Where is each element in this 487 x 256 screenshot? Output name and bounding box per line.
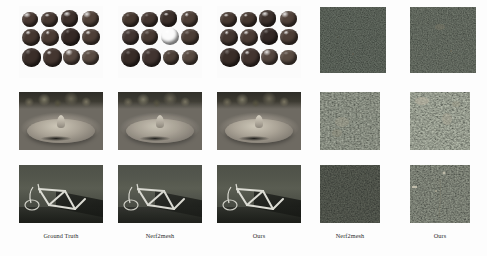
sphere-grid [220,10,299,70]
garden-vase [255,115,263,128]
error-map [320,92,380,150]
panel-row2-nerf2mesh-errormap [320,92,380,150]
panel-row2-ours-errormap [410,92,470,150]
sphere [240,29,258,46]
sphere [260,28,278,46]
sphere [63,49,80,65]
panel-row3-ours [217,165,301,223]
sphere [122,12,139,28]
comparison-figure: Ground Truth Nerf2mesh Ours Nerf2mesh Ou… [0,0,487,256]
sphere [22,12,39,28]
error-map-noise [320,92,380,150]
garden-scene-ours [217,92,301,150]
sphere [82,50,99,66]
garden-canopy [118,92,202,109]
bicycle-scene-nerf2mesh [118,165,202,223]
sphere [182,50,198,66]
sphere [22,48,42,67]
panel-row3-ours-errormap [410,165,470,223]
sphere [220,48,240,67]
panel-row3-ground-truth [19,165,103,223]
sphere [141,12,158,28]
panel-row3-nerf2mesh [118,165,202,223]
sphere [280,29,297,45]
sphere [181,29,198,45]
sphere [259,10,276,26]
panel-row2-ours [217,92,301,150]
sphere [241,48,260,66]
column-label-ours-errormap: Ours [406,231,474,240]
sphere [220,12,237,28]
sphere [220,29,238,46]
column-label-nerf2mesh-render: Nerf2mesh [126,231,194,240]
spheres-render-nerf2mesh [118,6,202,78]
garden-vase [57,115,65,128]
error-map-noise [410,7,476,73]
column-label-nerf2mesh-errormap: Nerf2mesh [316,231,384,240]
sphere [22,29,40,46]
bicycle-frame [19,165,103,223]
garden-vase [156,115,164,128]
spheres-render-gt [19,6,103,78]
bicycle-scene-ours [217,165,301,223]
sphere [43,48,62,66]
sphere [280,50,297,66]
error-map [410,165,470,223]
panel-row1-nerf2mesh-errormap [320,7,386,73]
garden-canopy [217,92,301,109]
sphere [261,49,278,65]
error-map [320,165,380,223]
sphere-grid [121,10,200,70]
panel-row3-nerf2mesh-errormap [320,165,380,223]
sphere [82,11,99,27]
spheres-render-ours [217,6,301,78]
sphere [41,29,59,46]
sphere [122,29,139,45]
sphere [61,28,80,46]
error-map-noise [320,7,386,73]
sphere [41,12,58,28]
panel-row1-nerf2mesh [118,6,202,78]
sphere [280,11,297,27]
sphere [181,11,198,27]
column-label-ours-render: Ours [225,231,293,240]
bicycle-frame [217,165,301,223]
error-map [410,7,476,73]
sphere [61,10,78,26]
garden-canopy [19,92,103,109]
panel-row1-ours-errormap [410,7,476,73]
error-map-noise [320,165,380,223]
sphere [121,48,140,66]
sphere [160,10,177,26]
error-map-noise [410,165,470,223]
bicycle-frame [118,165,202,223]
sphere [141,29,158,45]
panel-row2-nerf2mesh [118,92,202,150]
sphere [161,28,179,46]
panel-row1-ours [217,6,301,78]
panel-row2-ground-truth [19,92,103,150]
panel-row1-ground-truth [19,6,103,78]
sphere-grid [22,10,101,70]
sphere [240,12,257,28]
bicycle-scene-gt [19,165,103,223]
error-map-noise [410,92,470,150]
garden-scene-gt [19,92,103,150]
sphere [82,29,99,45]
sphere [142,48,161,66]
column-label-ground-truth: Ground Truth [27,231,95,240]
error-map [320,7,386,73]
error-map [410,92,470,150]
sphere [163,50,179,66]
garden-scene-nerf2mesh [118,92,202,150]
